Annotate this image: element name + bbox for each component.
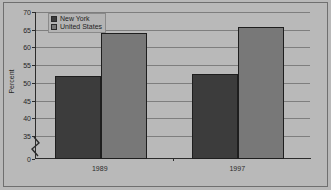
y-tick-mark: [32, 118, 35, 119]
y-tick-label: 55: [23, 62, 31, 69]
bar-new-york-1989: [55, 76, 101, 159]
legend-label-united-states: United States: [60, 23, 102, 31]
bar-new-york-1997: [192, 74, 238, 159]
bar-united-states-1997: [238, 27, 284, 159]
y-tick-label: 60: [23, 44, 31, 51]
y-axis-title: Percent: [8, 59, 15, 105]
y-tick-mark: [32, 12, 35, 13]
legend-item-united-states: United States: [51, 23, 102, 31]
x-tick-mark: [173, 158, 174, 161]
legend-swatch-united-states: [51, 24, 57, 30]
y-tick-mark: [32, 101, 35, 102]
bar-united-states-1989: [101, 33, 147, 159]
bar-chart-figure: 70656055504540350 Percent New York Unite…: [0, 0, 331, 190]
y-tick-label: 50: [23, 79, 31, 86]
y-tick-mark: [32, 136, 35, 137]
x-tick-label: 1997: [229, 165, 245, 172]
y-tick-mark: [32, 30, 35, 31]
y-tick-label: 70: [23, 9, 31, 16]
bars-layer: [36, 12, 310, 159]
y-axis-tick-labels: 70656055504540350: [0, 0, 31, 190]
y-tick-mark: [32, 47, 35, 48]
y-tick-mark: [32, 159, 35, 160]
chart-legend: New York United States: [48, 13, 106, 33]
y-tick-label: 65: [23, 26, 31, 33]
y-tick-mark: [32, 83, 35, 84]
y-tick-mark: [32, 65, 35, 66]
y-tick-label: 45: [23, 97, 31, 104]
legend-item-new-york: New York: [51, 15, 102, 23]
y-tick-label: 40: [23, 115, 31, 122]
legend-label-new-york: New York: [60, 15, 90, 23]
legend-swatch-new-york: [51, 16, 57, 22]
x-tick-label: 1989: [92, 165, 108, 172]
